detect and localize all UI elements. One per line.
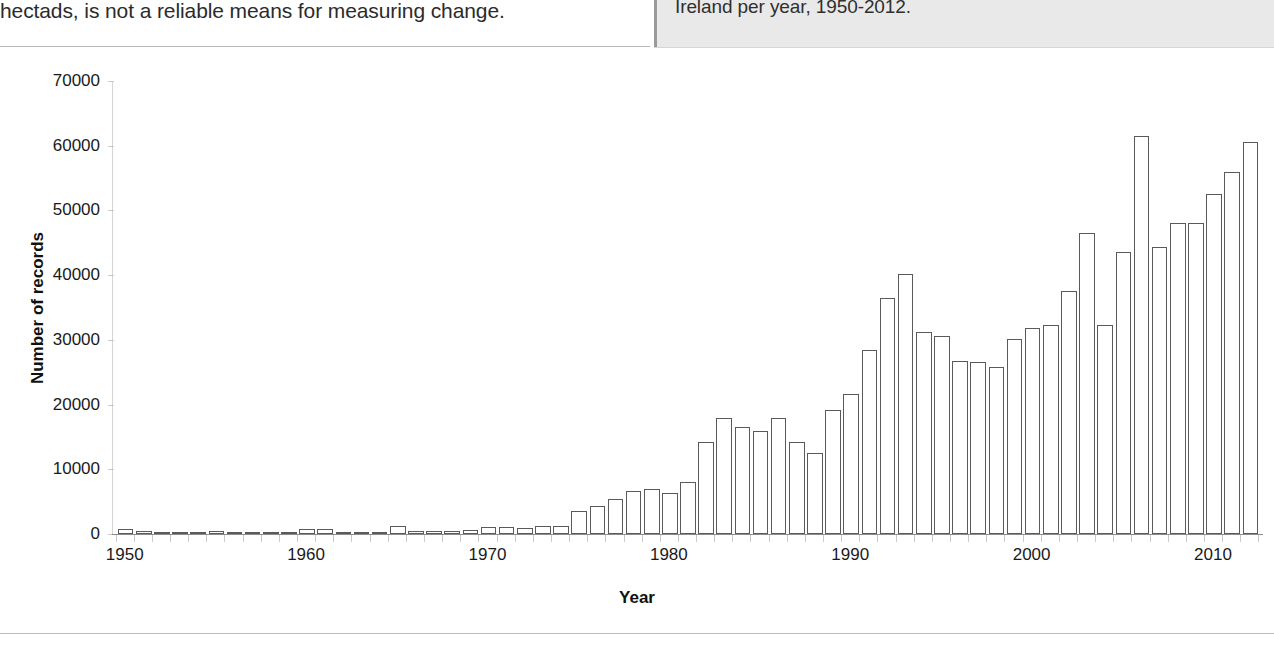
x-axis-minor-tick	[370, 535, 371, 542]
bar	[590, 506, 606, 534]
bar	[952, 361, 968, 534]
y-axis-tick-mark	[108, 340, 114, 341]
x-axis-minor-tick	[116, 535, 117, 542]
y-axis-tick-mark	[108, 275, 114, 276]
bar	[1152, 247, 1168, 534]
x-axis-minor-tick	[1095, 535, 1096, 542]
bar	[989, 367, 1005, 534]
bar	[662, 493, 678, 534]
bar	[934, 336, 950, 534]
y-axis-tick-labels: 700006000050000400003000020000100000	[22, 48, 100, 633]
bar	[481, 527, 497, 534]
bar	[735, 427, 751, 534]
bar	[571, 511, 587, 534]
bar	[1061, 291, 1077, 534]
x-axis-minor-tick	[750, 535, 751, 542]
x-axis-minor-tick	[805, 535, 806, 542]
x-axis-minor-tick	[823, 535, 824, 542]
bar	[1025, 328, 1041, 534]
x-axis-minor-tick	[678, 535, 679, 542]
x-axis-minor-tick	[333, 535, 334, 542]
x-axis-title: Year	[0, 588, 1274, 608]
bar	[807, 453, 823, 534]
x-axis-minor-tick	[605, 535, 606, 542]
x-axis-minor-tick	[642, 535, 643, 542]
bar-chart-figure: Number of records 7000060000500004000030…	[0, 48, 1274, 633]
x-axis-minor-tick	[660, 535, 661, 542]
x-axis-minor-tick	[714, 535, 715, 542]
x-axis-tick-label: 1960	[287, 545, 325, 565]
bar	[1043, 325, 1059, 534]
x-axis-minor-tick	[968, 535, 969, 542]
x-axis-minor-tick	[787, 535, 788, 542]
bar	[644, 489, 660, 534]
bar	[1188, 223, 1204, 534]
x-axis-minor-tick	[351, 535, 352, 542]
x-axis-minor-tick	[388, 535, 389, 542]
x-axis-minor-tick	[134, 535, 135, 542]
x-axis-minor-tick	[243, 535, 244, 542]
bar	[1097, 325, 1113, 534]
x-axis-minor-tick	[769, 535, 770, 542]
x-axis-minor-tick	[914, 535, 915, 542]
y-axis-tick-label: 0	[22, 524, 100, 544]
bar	[626, 491, 642, 534]
x-axis-minor-tick	[515, 535, 516, 542]
x-axis-minor-tick	[533, 535, 534, 542]
x-axis-minor-tick	[1004, 535, 1005, 542]
y-axis-tick-label: 30000	[22, 330, 100, 350]
x-axis-minor-tick	[442, 535, 443, 542]
x-axis-minor-tick	[206, 535, 207, 542]
x-axis-minor-tick	[1113, 535, 1114, 542]
bar	[499, 527, 515, 534]
bar	[1007, 339, 1023, 534]
x-axis-minor-tick	[1240, 535, 1241, 542]
x-axis-minor-tick	[152, 535, 153, 542]
x-axis-minor-tick	[279, 535, 280, 542]
bar	[970, 362, 986, 534]
bar	[1224, 172, 1240, 534]
x-axis-minor-tick	[406, 535, 407, 542]
x-axis-minor-tick	[261, 535, 262, 542]
x-axis-line	[112, 534, 1263, 535]
bar	[680, 482, 696, 534]
x-axis-minor-tick	[478, 535, 479, 542]
y-axis-tick-mark	[108, 146, 114, 147]
x-axis-minor-tick	[1059, 535, 1060, 542]
y-axis-tick-label: 40000	[22, 265, 100, 285]
x-axis-minor-tick	[1168, 535, 1169, 542]
x-axis-minor-tick	[315, 535, 316, 542]
bar	[880, 298, 896, 534]
x-axis-minor-tick	[1258, 535, 1259, 542]
x-axis-minor-tick	[497, 535, 498, 542]
bar	[608, 499, 624, 534]
x-axis-tick-label: 1990	[831, 545, 869, 565]
x-axis-minor-tick	[460, 535, 461, 542]
bar	[753, 431, 769, 534]
x-axis-minor-tick	[551, 535, 552, 542]
bar	[1206, 194, 1222, 534]
y-axis-tick-label: 10000	[22, 459, 100, 479]
x-axis-minor-tick	[624, 535, 625, 542]
x-axis-tick-label: 1950	[106, 545, 144, 565]
body-text-fragment: hectads, is not a reliable means for mea…	[0, 0, 640, 32]
x-axis-minor-tick	[224, 535, 225, 542]
x-axis-minor-tick	[424, 535, 425, 542]
x-axis-minor-tick	[1222, 535, 1223, 542]
x-axis-minor-tick	[1041, 535, 1042, 542]
x-axis-minor-tick	[986, 535, 987, 542]
bar	[716, 418, 732, 534]
bar	[916, 332, 932, 534]
x-axis-tick-label: 1980	[650, 545, 688, 565]
x-axis-minor-tick	[1077, 535, 1078, 542]
x-axis-minor-tick	[950, 535, 951, 542]
y-axis-tick-mark	[108, 210, 114, 211]
x-axis-minor-tick	[188, 535, 189, 542]
plot-area	[112, 81, 1263, 534]
y-axis-tick-mark	[108, 469, 114, 470]
bar	[1134, 136, 1150, 534]
y-axis-tick-mark	[108, 81, 114, 82]
x-axis-minor-tick	[569, 535, 570, 542]
bar	[789, 442, 805, 534]
y-axis-tick-label: 50000	[22, 200, 100, 220]
